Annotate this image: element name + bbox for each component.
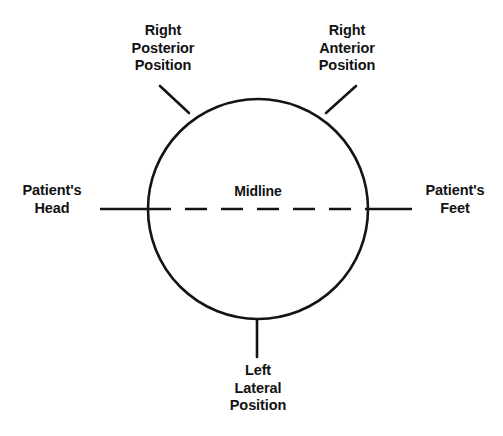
right-posterior-leader-line: [160, 86, 189, 113]
label-left-lateral-position: Left Lateral Position: [198, 362, 318, 415]
label-patients-head: Patient's Head: [4, 182, 100, 217]
right-anterior-leader-line: [326, 86, 356, 113]
label-patients-feet: Patient's Feet: [408, 182, 502, 217]
label-midline: Midline: [198, 183, 318, 201]
positioning-diagram: Right Posterior Position Right Anterior …: [0, 0, 503, 436]
label-right-anterior-position: Right Anterior Position: [288, 22, 406, 75]
label-right-posterior-position: Right Posterior Position: [104, 22, 222, 75]
